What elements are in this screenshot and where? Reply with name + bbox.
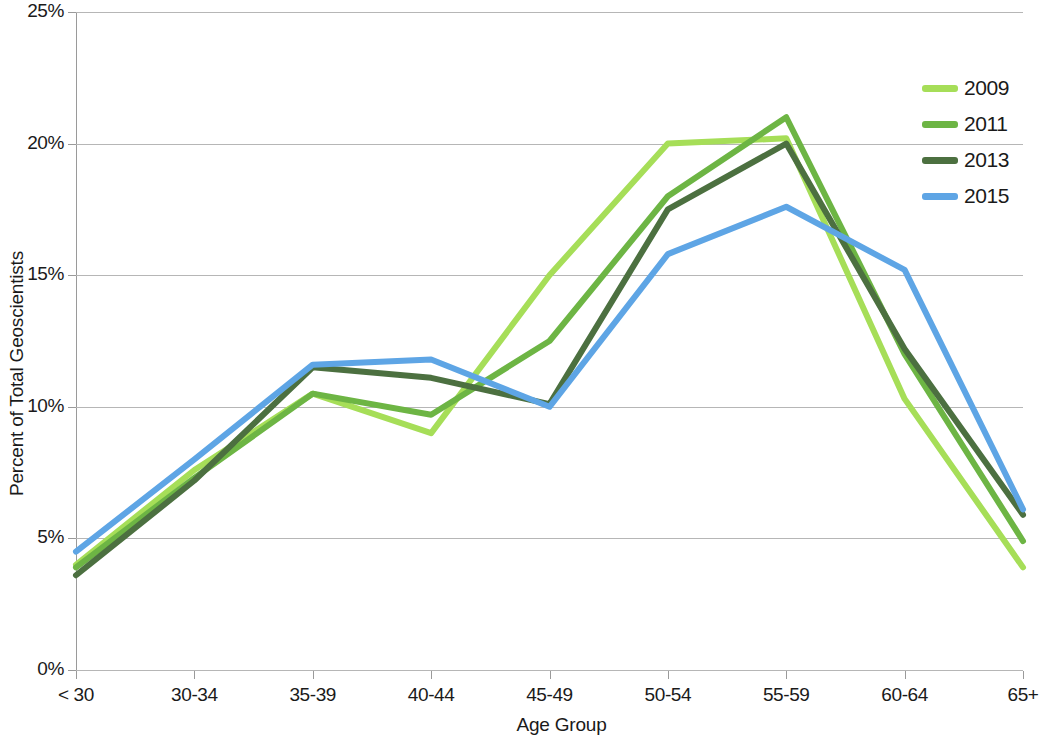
y-axis-tick [68,12,76,13]
x-axis-tick [313,671,314,679]
legend-item-2015[interactable]: 2015 [922,178,1042,214]
x-axis-tick-label: 55-59 [726,684,846,706]
legend-label: 2009 [964,76,1009,100]
x-axis-tick-label: 65+ [963,684,1047,706]
y-axis-tick [68,538,76,539]
line-chart: Percent of Total Geoscientists 0%5%10%15… [0,0,1047,747]
y-axis-tick [68,670,76,671]
y-axis-title: Percent of Total Geoscientists [0,0,34,747]
legend-swatch-icon [922,193,958,200]
x-axis-tick-label: 35-39 [253,684,373,706]
x-axis-tick [905,671,906,679]
x-axis-tick-label: 50-54 [608,684,728,706]
legend-item-2011[interactable]: 2011 [922,106,1042,142]
y-axis-tick [68,144,76,145]
y-axis-tick-label: 0% [0,658,64,680]
x-axis-tick [194,671,195,679]
x-axis-tick-label: 40-44 [371,684,491,706]
series-line-2013 [76,144,1023,576]
legend-label: 2015 [964,184,1009,208]
x-axis-tick [76,671,77,679]
x-axis-tick [786,671,787,679]
plot-area [76,12,1023,670]
legend-item-2009[interactable]: 2009 [922,70,1042,106]
x-axis-tick [1023,671,1024,679]
legend-swatch-icon [922,157,958,164]
legend-swatch-icon [922,121,958,128]
y-axis-tick-label: 20% [0,132,64,154]
x-axis-tick-label: 60-64 [845,684,965,706]
y-axis-tick-label: 15% [0,263,64,285]
x-axis-tick [668,671,669,679]
y-axis-tick-label: 25% [0,0,64,22]
y-axis-tick [68,275,76,276]
legend-item-2013[interactable]: 2013 [922,142,1042,178]
x-axis-tick-label: 45-49 [490,684,610,706]
legend-label: 2013 [964,148,1009,172]
x-axis-tick-label: 30-34 [134,684,254,706]
series-line-2015 [76,207,1023,552]
y-axis-tick [68,407,76,408]
x-axis-tick-label: < 30 [16,684,136,706]
series-line-2009 [76,138,1023,567]
y-axis-tick-label: 5% [0,526,64,548]
legend-swatch-icon [922,85,958,92]
x-axis-tick [550,671,551,679]
series-lines [76,12,1023,670]
legend-label: 2011 [964,112,1008,136]
x-axis-title: Age Group [76,714,1047,736]
y-axis-tick-label: 10% [0,395,64,417]
chart-legend: 2009201120132015 [922,70,1042,214]
x-axis-tick [431,671,432,679]
